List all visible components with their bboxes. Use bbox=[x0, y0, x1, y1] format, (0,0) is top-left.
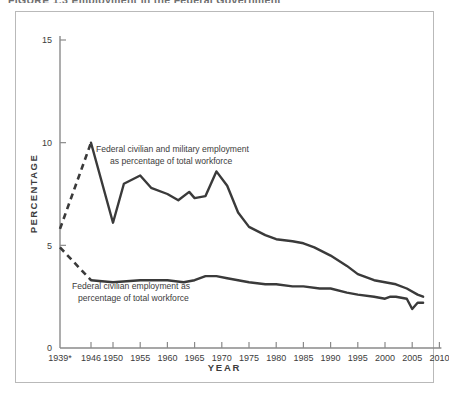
y-tick-label: 0 bbox=[47, 343, 52, 353]
series-1-annotation: Federal civilian employment as bbox=[72, 281, 190, 291]
y-tick-label: 15 bbox=[42, 35, 52, 45]
series-0-annotation: Federal civilian and military employment bbox=[96, 144, 249, 154]
y-axis-label: PERCENTAGE bbox=[28, 154, 39, 233]
series-1-annotation: percentage of total workforce bbox=[78, 293, 189, 303]
series-0-annotation: as percentage of total workforce bbox=[110, 156, 233, 166]
plot-area: 0510151939*19461950195519601965197019751… bbox=[0, 0, 449, 410]
y-tick-label: 5 bbox=[47, 241, 52, 251]
x-axis-label: YEAR bbox=[0, 362, 449, 373]
series-0-line bbox=[91, 143, 423, 297]
chart-svg: 0510151939*19461950195519601965197019751… bbox=[0, 0, 449, 410]
y-tick-label: 10 bbox=[42, 138, 52, 148]
series-0-dashed-segment bbox=[60, 143, 91, 229]
series-1-dashed-segment bbox=[60, 247, 91, 280]
figure-root: FIGURE 1.3 Employment in the Federal Gov… bbox=[0, 0, 449, 410]
